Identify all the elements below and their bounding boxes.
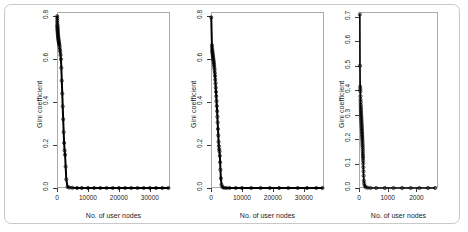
x-axis-label: No. of user nodes: [339, 212, 458, 219]
series-line: [211, 17, 322, 188]
y-tick-label: 0.5: [344, 54, 351, 74]
y-tick-label: 0.8: [196, 5, 203, 25]
data-series-1: [57, 12, 172, 190]
x-tick-label: 2000: [399, 194, 433, 201]
y-tick-label: 0.2: [42, 134, 49, 154]
series-line: [57, 16, 168, 188]
x-axis-label: No. of user nodes: [191, 212, 344, 219]
x-tick-label: 30000: [130, 194, 170, 201]
y-tick-label: 0.1: [344, 152, 351, 172]
y-axis-label: Gini coefficient: [338, 81, 345, 128]
data-series-3: [359, 12, 440, 190]
y-axis-label: Gini coefficient: [190, 81, 197, 128]
y-tick-label: 0.6: [42, 48, 49, 68]
data-series-2: [211, 12, 326, 190]
y-tick-label: 0.8: [42, 5, 49, 25]
y-tick-label: 0.7: [344, 5, 351, 25]
y-tick-label: 0.2: [344, 128, 351, 148]
x-axis-label: No. of user nodes: [37, 212, 190, 219]
series-line: [360, 14, 435, 188]
y-axis-label: Gini coefficient: [36, 81, 43, 128]
y-tick-label: 0.2: [196, 134, 203, 154]
y-tick-label: 0.6: [344, 30, 351, 50]
x-tick-label: 30000: [284, 194, 324, 201]
figure-container: 0.00.20.40.60.80100002000030000Gini coef…: [0, 0, 468, 232]
y-tick-label: 0.6: [196, 48, 203, 68]
